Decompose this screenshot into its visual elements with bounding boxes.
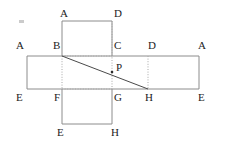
vertex-label-layer: A D A B C D A P E F G H E E H bbox=[0, 0, 225, 146]
vertex-label-mid-d: D bbox=[148, 40, 156, 51]
vertex-label-bot-g: G bbox=[114, 92, 122, 103]
vertex-label-bot-h: H bbox=[145, 92, 153, 103]
vertex-label-bot-f: F bbox=[54, 92, 60, 103]
geometry-figure: A D A B C D A P E F G H E E H bbox=[0, 0, 225, 146]
vertex-label-bot-e-left: E bbox=[16, 92, 23, 103]
vertex-label-base-e: E bbox=[57, 127, 64, 138]
vertex-label-mid-a-right: A bbox=[198, 40, 206, 51]
vertex-label-p: P bbox=[116, 62, 122, 73]
vertex-label-top-a: A bbox=[60, 8, 68, 19]
vertex-label-bot-e-right: E bbox=[198, 92, 205, 103]
vertex-label-base-h: H bbox=[111, 127, 119, 138]
vertex-label-mid-b: B bbox=[53, 40, 60, 51]
scan-speck-artifact bbox=[19, 20, 24, 23]
vertex-label-mid-c: C bbox=[114, 40, 121, 51]
vertex-label-mid-a-left: A bbox=[16, 40, 24, 51]
vertex-label-top-d: D bbox=[114, 8, 122, 19]
